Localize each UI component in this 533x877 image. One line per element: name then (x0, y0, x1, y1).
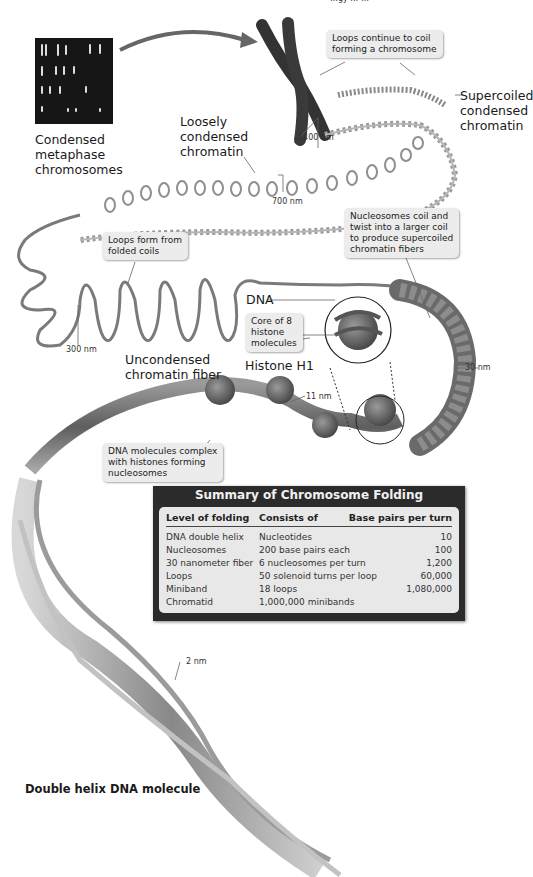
measure-30nm: 30 nm (465, 363, 491, 372)
table-row: DNA double helix Nucleotides 10 (166, 532, 452, 544)
table-row: Loops 50 solenoid turns per loop 60,000 (166, 571, 452, 583)
callout-loops-continue: Loops continue to coil forming a chromos… (326, 30, 443, 58)
label-histone-h1: Histone H1 (245, 358, 314, 373)
measure-700nm: 700 nm (272, 197, 303, 206)
col-header-level: Level of folding (166, 512, 249, 523)
measure-11nm: 11 nm (306, 392, 332, 401)
measure-2nm: 2 nm (186, 657, 207, 666)
arrow-to-chromosome (120, 32, 245, 50)
summary-title: Summary of Chromosome Folding (153, 488, 465, 502)
label-loosely-condensed: Loosely condensed chromatin (180, 114, 248, 159)
header-fragment: …gy … … (330, 0, 369, 3)
table-row: Chromatid 1,000,000 minibands (166, 597, 452, 609)
col-header-bp: Base pairs per turn (349, 512, 452, 523)
label-condensed-metaphase: Condensed metaphase chromosomes (35, 132, 123, 177)
col-header-consists: Consists of (259, 512, 318, 523)
table-row: Nucleosomes 200 base pairs each 100 (166, 545, 452, 557)
summary-table: Summary of Chromosome Folding Level of f… (153, 486, 465, 621)
label-uncondensed-fiber: Uncondensed chromatin fiber (125, 352, 221, 382)
callout-nucleosomes-coil: Nucleosomes coil and twist into a larger… (344, 208, 459, 258)
measure-1400nm: 1400 nm (298, 133, 334, 142)
summary-body: Level of folding Consists of Base pairs … (159, 507, 459, 613)
label-dna: DNA (246, 292, 274, 307)
label-supercoiled: Supercoiled condensed chromatin (460, 88, 533, 133)
karyotype-image (35, 38, 113, 124)
callout-loops-form: Loops form from folded coils (102, 232, 188, 260)
table-row: Miniband 18 loops 1,080,000 (166, 584, 452, 596)
callout-dna-complex: DNA molecules complex with histones form… (102, 443, 223, 482)
table-header: Level of folding Consists of Base pairs … (166, 512, 452, 527)
chromosome-icon (262, 23, 325, 140)
callout-core-histone: Core of 8 histone molecules (245, 313, 303, 352)
label-double-helix: Double helix DNA molecule (25, 782, 200, 796)
table-row: 30 nanometer fiber 6 nucleosomes per tur… (166, 558, 452, 570)
measure-300nm: 300 nm (66, 345, 97, 354)
